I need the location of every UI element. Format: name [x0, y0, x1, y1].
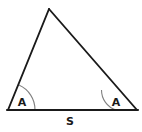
geometry-figure: A A S	[0, 0, 142, 132]
base-side-label: S	[66, 115, 74, 128]
triangle-diagram-svg: A A S	[0, 0, 142, 132]
left-angle-label: A	[18, 96, 27, 109]
diagram-background	[0, 0, 142, 132]
right-angle-label: A	[112, 96, 121, 109]
